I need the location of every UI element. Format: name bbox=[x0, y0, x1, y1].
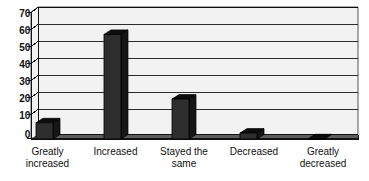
x-label-greatly-decreased: Greatly decreased bbox=[292, 146, 354, 169]
x-label-greatly-increased: Greatly increased bbox=[20, 146, 75, 169]
bar-increased bbox=[104, 30, 128, 139]
x-label-decreased: Decreased bbox=[225, 146, 283, 158]
bar-greatly-increased bbox=[36, 118, 60, 139]
x-label-stayed-the-same: Stayed the same bbox=[154, 146, 214, 169]
bar-stayed-the-same bbox=[172, 95, 196, 139]
x-label-increased: Increased bbox=[88, 146, 143, 158]
bar-chart: 70 60 50 40 30 20 10 0 bbox=[0, 0, 369, 181]
